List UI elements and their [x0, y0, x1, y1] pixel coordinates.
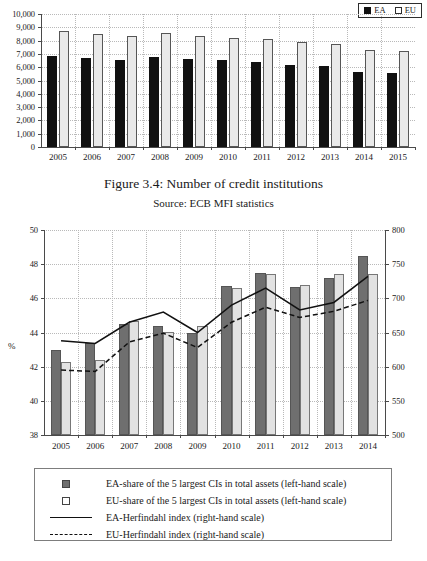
legend-item-eu-share: EU-share of the 5 largest CIs in total a…	[35, 492, 391, 509]
bar-ea	[285, 65, 295, 147]
open-square-icon	[62, 497, 70, 505]
figure-page: EA EU 01,0002,0003,0004,0005,0006,0007,0…	[0, 0, 427, 561]
x-tick-label: 2014	[346, 153, 382, 162]
solid-line-icon	[50, 517, 92, 518]
y-tick	[38, 41, 42, 42]
x-tick	[177, 147, 178, 150]
y-tick	[38, 107, 42, 108]
top-chart-legend: EA EU	[358, 3, 422, 18]
bar-eu	[93, 34, 103, 147]
dashed-line-icon	[50, 534, 92, 535]
line-ea-herfindahl	[61, 276, 368, 343]
y-tick	[38, 147, 42, 148]
y-tick-label: 7,000	[0, 50, 35, 59]
concentration-herfindahl-chart: % 38404244464850500550600650700750800200…	[0, 218, 427, 463]
x-tick-label: 2010	[210, 153, 246, 162]
legend-item-ea-herfindahl: EA-Herfindahl index (right-hand scale)	[35, 509, 391, 526]
bar-ea	[319, 66, 329, 147]
y-tick-label: 10,000	[0, 10, 35, 19]
bar-eu	[195, 36, 205, 147]
bar-ea	[217, 60, 227, 147]
x-tick	[279, 147, 280, 150]
bar-eu	[399, 51, 409, 147]
figure-source: Source: ECB MFI statistics	[0, 196, 427, 210]
y-tick-label: 0	[0, 143, 35, 152]
x-tick	[211, 147, 212, 150]
bar-ea	[183, 59, 193, 147]
gridline-vertical	[75, 14, 76, 147]
legend-label-eu-herfindahl: EU-Herfindahl index (right-hand scale)	[106, 529, 264, 541]
y-tick	[38, 67, 42, 68]
x-tick	[75, 147, 76, 150]
y-tick-label: 1,000	[0, 130, 35, 139]
x-tick	[245, 147, 246, 150]
x-axis-line	[41, 147, 415, 148]
open-square-icon	[395, 7, 402, 14]
bar-eu	[365, 50, 375, 147]
bar-eu	[263, 39, 273, 147]
bar-eu	[127, 36, 137, 147]
y-tick	[38, 134, 42, 135]
x-tick-label: 2015	[380, 153, 416, 162]
gridline-vertical	[109, 14, 110, 147]
bar-ea	[47, 56, 57, 147]
legend-item-ea-share: EA-share of the 5 largest CIs in total a…	[35, 475, 391, 492]
y-tick	[38, 27, 42, 28]
gridline-vertical	[347, 14, 348, 147]
figure-caption: Figure 3.4: Number of credit institution…	[0, 176, 427, 192]
x-tick	[109, 147, 110, 150]
x-tick-label: 2012	[278, 153, 314, 162]
legend-item-eu-herfindahl: EU-Herfindahl index (right-hand scale)	[35, 526, 391, 543]
x-tick-label: 2006	[74, 153, 110, 162]
y-tick-label: 4,000	[0, 90, 35, 99]
x-tick-label: 2009	[176, 153, 212, 162]
bar-eu	[161, 33, 171, 147]
herfindahl-line-overlay	[0, 218, 427, 463]
bar-ea	[81, 58, 91, 147]
x-tick-label: 2005	[40, 153, 76, 162]
gridline-vertical	[211, 14, 212, 147]
legend-label-eu-share: EU-share of the 5 largest CIs in total a…	[106, 495, 346, 507]
filled-square-black-icon	[364, 7, 371, 14]
x-tick-label: 2013	[312, 153, 348, 162]
x-tick-label: 2008	[142, 153, 178, 162]
bar-ea	[251, 62, 261, 147]
bar-eu	[59, 31, 69, 147]
bar-eu	[229, 38, 239, 147]
y-tick	[38, 81, 42, 82]
y-tick-label: 9,000	[0, 23, 35, 32]
x-tick	[381, 147, 382, 150]
x-tick	[415, 147, 416, 150]
y-tick	[38, 54, 42, 55]
bar-ea	[353, 72, 363, 147]
y-tick	[38, 120, 42, 121]
y-tick	[38, 14, 42, 15]
gridline-vertical	[245, 14, 246, 147]
x-tick-label: 2007	[108, 153, 144, 162]
credit-institutions-bar-chart: EA EU 01,0002,0003,0004,0005,0006,0007,0…	[0, 0, 427, 170]
gridline-vertical	[381, 14, 382, 147]
bar-ea	[115, 60, 125, 147]
x-tick	[347, 147, 348, 150]
x-tick	[313, 147, 314, 150]
y-tick-label: 6,000	[0, 63, 35, 72]
legend-label-ea-herfindahl: EA-Herfindahl index (right-hand scale)	[106, 512, 264, 524]
bar-ea	[387, 73, 397, 147]
legend-label-ea-share: EA-share of the 5 largest CIs in total a…	[106, 478, 346, 490]
gridline-vertical	[177, 14, 178, 147]
bar-eu	[297, 42, 307, 147]
y-tick-label: 8,000	[0, 37, 35, 46]
y-tick-label: 2,000	[0, 116, 35, 125]
y-tick-label: 5,000	[0, 77, 35, 86]
x-tick	[143, 147, 144, 150]
gridline-vertical	[279, 14, 280, 147]
filled-square-gray-icon	[62, 480, 70, 488]
bottom-chart-legend: EA-share of the 5 largest CIs in total a…	[34, 468, 392, 541]
gridline-vertical	[143, 14, 144, 147]
y-tick	[38, 94, 42, 95]
y-tick-label: 3,000	[0, 103, 35, 112]
gridline-vertical	[313, 14, 314, 147]
gridline-horizontal	[41, 27, 415, 28]
bar-ea	[149, 57, 159, 147]
bar-eu	[331, 44, 341, 147]
